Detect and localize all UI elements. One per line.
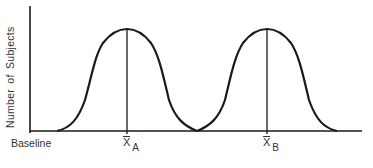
mean-a-subscript: A — [132, 142, 139, 153]
y-axis-label: Number of Subjects — [4, 26, 16, 128]
mean-b-label: XB — [263, 136, 279, 153]
mean-a-symbol: X — [123, 136, 130, 148]
x-axis-label: Baseline — [11, 137, 51, 149]
mean-b-subscript: B — [272, 142, 279, 153]
bimodal-chart — [0, 0, 373, 168]
mean-a-label: XA — [123, 136, 139, 153]
mean-b-symbol: X — [263, 136, 270, 148]
